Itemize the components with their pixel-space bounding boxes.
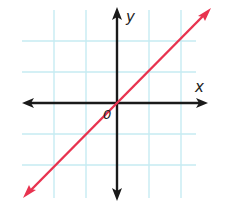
coordinate-graph: y x 0: [0, 0, 226, 212]
graph-canvas: y x 0: [0, 0, 226, 212]
y-axis-label: y: [125, 8, 136, 26]
origin-label: 0: [103, 107, 111, 122]
x-axis-label: x: [194, 78, 204, 96]
